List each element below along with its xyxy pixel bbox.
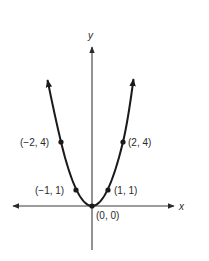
label-neg1-1: (−1, 1) xyxy=(35,185,64,196)
y-axis-label: y xyxy=(87,30,94,41)
label-2-4: (2, 4) xyxy=(128,137,151,148)
point-neg1-1 xyxy=(73,187,78,192)
parabola-diagram: x y (−2, 4) (−1, 1) (0, 0) (1, 1) (2, 4) xyxy=(0,0,209,261)
label-origin: (0, 0) xyxy=(96,210,119,221)
point-1-1 xyxy=(105,187,110,192)
point-origin xyxy=(89,203,94,208)
point-2-4 xyxy=(120,139,125,144)
label-neg2-4: (−2, 4) xyxy=(20,137,49,148)
x-axis-label: x xyxy=(178,201,185,212)
point-neg2-4 xyxy=(58,139,63,144)
label-1-1: (1, 1) xyxy=(114,185,137,196)
